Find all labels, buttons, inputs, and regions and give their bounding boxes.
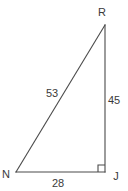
side-label-leg-45: 45 [108,94,120,106]
side-label-base-28: 28 [52,177,64,189]
triangle-figure: R N J 53 45 28 [0,0,128,191]
vertex-label-j: J [113,170,119,182]
triangle-diagram-svg: R N J 53 45 28 [0,0,128,191]
vertex-label-r: R [98,6,106,18]
side-label-hypotenuse-53: 53 [46,87,58,99]
vertex-label-n: N [2,168,10,180]
